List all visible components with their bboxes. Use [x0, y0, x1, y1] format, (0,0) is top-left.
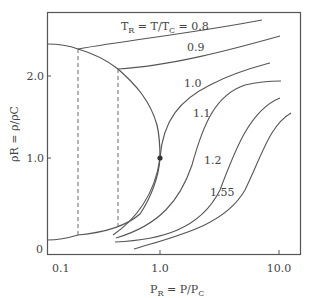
- x-tick-label: 10.0: [267, 262, 292, 275]
- curve-label-1.0: 1.0: [184, 77, 202, 90]
- curve-label-1.55: 1.55: [210, 186, 235, 199]
- x-tick-label: 0.1: [52, 262, 70, 275]
- y-axis-title: ρR = ρ/ρC: [8, 106, 21, 162]
- critical-point: [157, 155, 162, 160]
- plot-frame: [48, 13, 301, 255]
- isotherm-1.1: [116, 81, 281, 238]
- x-axis-title: PR = P/PC: [150, 283, 204, 298]
- legend-title: TR = T/TC = 0.8: [121, 20, 209, 35]
- curve-label-0.9: 0.9: [187, 41, 205, 54]
- curve-label-1.1: 1.1: [193, 107, 211, 120]
- y-tick-label: 0: [36, 243, 43, 256]
- y-tick-label: 2.0: [27, 70, 45, 83]
- curve-label-1.2: 1.2: [204, 154, 222, 167]
- y-tick-label: 1.0: [27, 152, 45, 165]
- isotherm-1.55: [134, 113, 291, 249]
- x-tick-label: 1.0: [151, 262, 169, 275]
- saturation-dome: [47, 44, 160, 240]
- phase-diagram-chart: 0.1 1.0 10.0 0 1.0 2.0 PR = P/PC ρR = ρ/…: [0, 0, 310, 298]
